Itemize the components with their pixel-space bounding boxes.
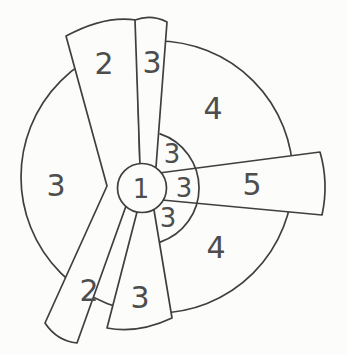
blade-3-top (135, 17, 167, 167)
label-blade-upper-left: 2 (94, 46, 113, 81)
label-blade-top: 3 (142, 45, 161, 80)
fan-blade-diagram: 1 2 3 4 3 5 4 2 3 3 3 3 (0, 0, 347, 354)
label-sector-upper-right: 4 (203, 91, 222, 126)
label-blade-lower-left: 2 (79, 273, 98, 308)
label-ring-upper: 3 (164, 139, 181, 169)
label-sector-left: 3 (46, 168, 65, 203)
label-blade-bottom: 3 (130, 280, 149, 315)
label-ring-middle: 3 (176, 173, 193, 203)
label-hub-center: 1 (133, 174, 150, 204)
diagram-canvas: 1 2 3 4 3 5 4 2 3 3 3 3 (0, 0, 347, 354)
label-blade-right: 5 (242, 167, 261, 202)
label-ring-lower: 3 (160, 203, 177, 233)
label-sector-lower-right: 4 (206, 230, 225, 265)
